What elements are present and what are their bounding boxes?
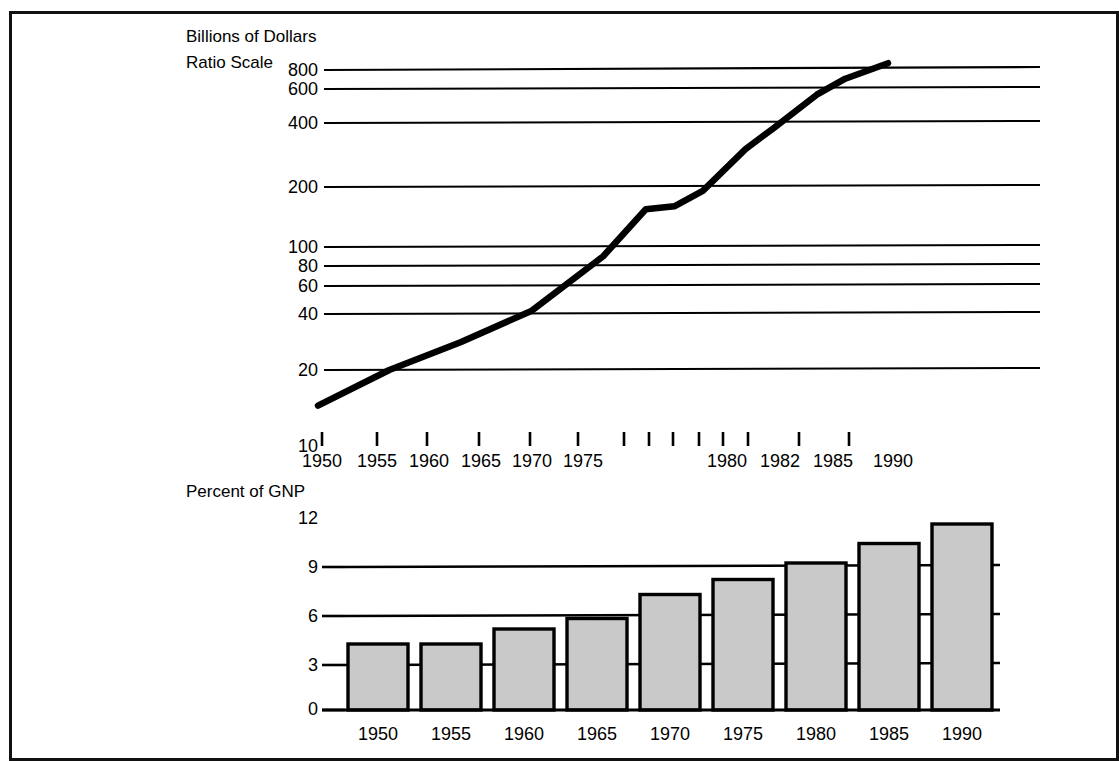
line-chart: Billions of Dollars Ratio Scale 800 600 … <box>186 27 1040 471</box>
bar-chart-bar-1970 <box>640 595 700 711</box>
bar-chart-xlabel-1985: 1985 <box>869 724 909 744</box>
bar-chart-ytick-6: 6 <box>308 606 318 626</box>
line-chart-ytick-200: 200 <box>288 177 318 197</box>
line-chart-ytick-800: 800 <box>288 60 318 80</box>
line-chart-xlabel-1955: 1955 <box>357 451 397 471</box>
line-chart-xlabel-1960: 1960 <box>409 451 449 471</box>
bar-chart-xlabel-1965: 1965 <box>577 724 617 744</box>
line-chart-xlabel-1982: 1982 <box>760 451 800 471</box>
bar-chart-xlabel-1990: 1990 <box>942 724 982 744</box>
line-chart-ylabel-line2: Ratio Scale <box>186 53 273 72</box>
bar-chart-bar-1990 <box>932 524 992 710</box>
bar-chart-bar-1960 <box>494 629 554 710</box>
bar-chart-xlabel-1955: 1955 <box>431 724 471 744</box>
bar-chart-xlabel-1970: 1970 <box>650 724 690 744</box>
bar-chart-ytick-0: 0 <box>308 699 318 719</box>
line-chart-gridline-600 <box>324 87 1040 89</box>
line-chart-xlabel-1965: 1965 <box>461 451 501 471</box>
bar-chart-xlabel-1980: 1980 <box>796 724 836 744</box>
bar-chart-bar-1980 <box>786 563 846 710</box>
bar-chart-bar-1965 <box>567 619 627 711</box>
bar-chart-bar-1975 <box>713 580 773 711</box>
line-chart-series-path <box>318 63 888 405</box>
bar-chart-xlabel-1950: 1950 <box>358 724 398 744</box>
line-chart-gridline-40 <box>324 312 1040 314</box>
bar-chart: Percent of GNP 12 9 6 3 0 <box>186 482 1000 744</box>
line-chart-gridline-800-top <box>324 67 1040 70</box>
line-chart-gridline-20 <box>324 368 1040 370</box>
line-chart-ylabel-line1: Billions of Dollars <box>186 27 316 46</box>
bar-chart-ytick-9: 9 <box>308 557 318 577</box>
line-chart-xlabel-1985: 1985 <box>813 451 853 471</box>
bar-chart-ytick-12: 12 <box>298 508 318 528</box>
line-chart-xlabel-1990: 1990 <box>873 451 913 471</box>
line-chart-ytick-60: 60 <box>298 276 318 296</box>
bar-chart-bar-1950 <box>348 644 408 710</box>
bar-chart-ytick-3: 3 <box>308 655 318 675</box>
bar-chart-xlabel-1960: 1960 <box>504 724 544 744</box>
line-chart-ytick-600: 600 <box>288 79 318 99</box>
line-chart-ytick-20: 20 <box>298 360 318 380</box>
line-chart-ytick-40: 40 <box>298 304 318 324</box>
line-chart-xlabel-1980: 1980 <box>707 451 747 471</box>
bar-chart-xlabel-1975: 1975 <box>723 724 763 744</box>
line-chart-gridline-200 <box>324 185 1040 187</box>
line-chart-xlabel-1950: 1950 <box>302 451 342 471</box>
bar-chart-ylabel: Percent of GNP <box>186 482 305 501</box>
line-chart-gridline-100 <box>324 245 1040 247</box>
line-chart-ytick-100: 100 <box>288 237 318 257</box>
line-chart-ytick-80: 80 <box>298 256 318 276</box>
bar-chart-bar-1955 <box>421 644 481 710</box>
line-chart-gridline-400 <box>324 121 1040 123</box>
bar-chart-bar-1985 <box>859 544 919 711</box>
line-chart-xlabel-1975: 1975 <box>563 451 603 471</box>
line-chart-xlabel-1970: 1970 <box>512 451 552 471</box>
line-chart-gridline-60 <box>324 284 1040 286</box>
line-chart-ytick-400: 400 <box>288 113 318 133</box>
line-chart-gridline-80 <box>324 264 1040 266</box>
